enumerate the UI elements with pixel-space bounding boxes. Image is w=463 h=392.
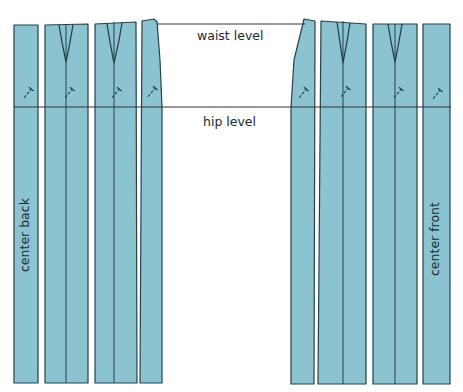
piece-outline — [291, 19, 315, 384]
pattern-piece-back-3 — [95, 22, 137, 383]
piece-outline — [140, 19, 162, 383]
skirt-pattern-diagram — [0, 0, 463, 392]
pattern-piece-front-5 — [291, 19, 315, 384]
piece-outline — [318, 21, 366, 384]
piece-outline — [95, 22, 137, 383]
pattern-pieces — [14, 19, 450, 384]
waist-level-label: waist level — [197, 30, 263, 43]
hip-level-label: hip level — [203, 116, 256, 129]
pattern-piece-back-2 — [45, 24, 88, 383]
pattern-piece-front-7 — [373, 24, 417, 384]
pattern-piece-front-6 — [318, 21, 366, 384]
pattern-piece-back-4 — [140, 19, 162, 383]
center-front-label: center front — [429, 202, 442, 276]
center-back-label: center back — [19, 198, 32, 272]
